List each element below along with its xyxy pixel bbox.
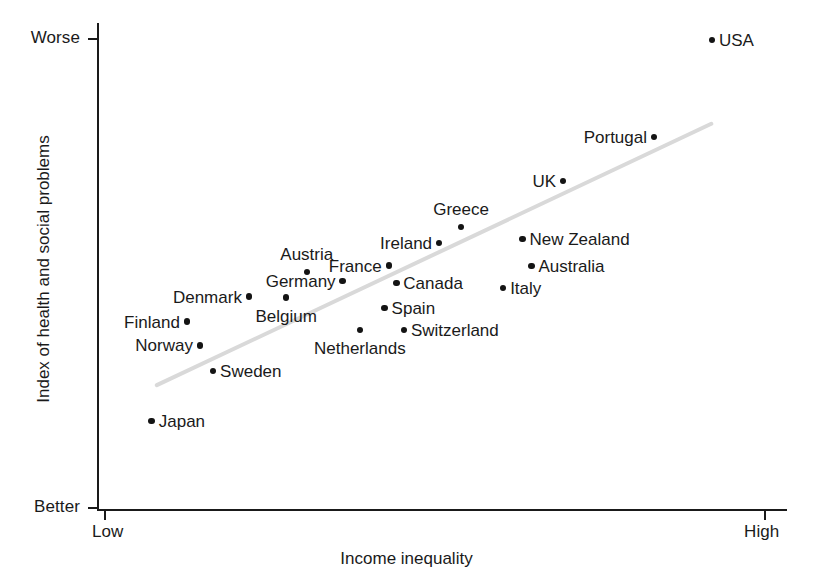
data-point-label: Netherlands <box>314 340 406 357</box>
data-point-marker <box>500 285 507 292</box>
data-point-marker <box>651 134 658 141</box>
y-axis-line <box>97 23 99 511</box>
data-point-label: New Zealand <box>529 231 629 248</box>
data-point-label: UK <box>532 173 556 190</box>
x-axis-title: Income inequality <box>0 549 813 569</box>
data-point-label: Austria <box>280 246 333 263</box>
data-point-label: Greece <box>433 201 489 218</box>
data-point-marker <box>339 278 346 285</box>
x-axis-label-high: High <box>744 522 779 542</box>
data-point-marker <box>283 294 290 301</box>
y-axis-title: Index of health and social problems <box>34 19 54 519</box>
data-point-label: Canada <box>403 275 463 292</box>
data-point-marker <box>436 240 443 247</box>
data-point-label: Italy <box>510 280 541 297</box>
data-point-marker <box>458 224 465 231</box>
data-point-label: USA <box>719 32 754 49</box>
data-point-marker <box>210 368 217 375</box>
data-point-marker <box>381 305 388 312</box>
x-axis-tick-low <box>104 511 106 520</box>
data-point-label: Ireland <box>380 235 432 252</box>
data-point-label: Finland <box>124 314 180 331</box>
data-point-label: Germany <box>266 273 336 290</box>
y-axis-tick-better <box>88 507 97 509</box>
x-axis-tick-high <box>764 511 766 520</box>
data-point-label: Portugal <box>584 129 647 146</box>
data-point-marker <box>709 37 716 44</box>
data-point-label: Australia <box>538 258 604 275</box>
data-point-label: Norway <box>135 337 193 354</box>
scatter-plot-figure: Worse Better Low High Income inequality … <box>0 0 813 581</box>
data-point-marker <box>386 262 393 269</box>
data-point-marker <box>357 327 364 334</box>
data-point-label: Switzerland <box>411 322 499 339</box>
data-point-label: Japan <box>159 413 205 430</box>
data-point-label: Spain <box>392 300 435 317</box>
data-point-marker <box>528 263 535 270</box>
data-point-marker <box>560 178 567 185</box>
data-point-label: Sweden <box>220 363 281 380</box>
y-axis-tick-worse <box>88 38 97 40</box>
x-axis-label-low: Low <box>92 522 124 542</box>
trendline <box>154 121 714 388</box>
data-point-label: Denmark <box>173 289 242 306</box>
data-point-marker <box>197 342 204 349</box>
data-point-marker <box>148 418 155 425</box>
data-point-label: Belgium <box>255 308 316 325</box>
x-axis-line <box>97 509 787 511</box>
data-point-marker <box>184 318 191 325</box>
data-point-marker <box>393 280 400 287</box>
data-point-marker <box>519 236 526 243</box>
data-point-marker <box>246 293 253 300</box>
data-point-marker <box>401 327 408 334</box>
data-point-label: France <box>329 258 382 275</box>
